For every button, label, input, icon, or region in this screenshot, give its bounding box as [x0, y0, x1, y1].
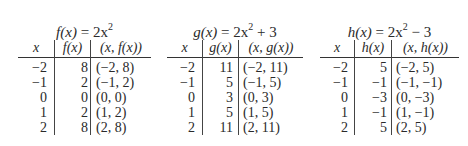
table-row: −25(−2, 5) [320, 60, 459, 75]
table-row: 15(1, 5) [167, 105, 303, 120]
table-row: −12(−1, 2) [18, 75, 151, 90]
table-row: −1−1(−1, −1) [320, 75, 459, 90]
header-x: x [320, 39, 354, 56]
table-row: 00(0, 0) [18, 90, 151, 105]
header-pair: (x, h(x)) [392, 39, 459, 56]
table-row: 12(1, 2) [18, 105, 151, 120]
header-pair: (x, f(x)) [91, 39, 151, 56]
header-gx: g(x) [203, 39, 238, 56]
table-row: −211(−2, 11) [167, 60, 303, 75]
table-g: g(x) = 2x2 + 3 x g(x) (x, g(x)) −211(−2,… [167, 23, 303, 135]
header-fx: f(x) [55, 39, 90, 56]
table-f: f(x) = 2x2 x f(x) (x, f(x)) −28(−2, 8) −… [18, 23, 151, 135]
table-row: 211(2, 11) [167, 120, 303, 135]
table-h: h(x) = 2x2 − 3 x h(x) (x, h(x)) −25(−2, … [320, 23, 459, 135]
header-x: x [167, 39, 202, 56]
table-row: 1−1(1, −1) [320, 105, 459, 120]
table-row: −15(−1, 5) [167, 75, 303, 90]
table-row: 03(0, 3) [167, 90, 303, 105]
header-hx: h(x) [355, 39, 391, 56]
header-rule [18, 57, 151, 58]
table-row: 0−3(0, −3) [320, 90, 459, 105]
header-rule [167, 57, 303, 58]
header-pair: (x, g(x)) [239, 39, 303, 56]
header-x: x [18, 39, 54, 56]
header-rule [320, 57, 459, 58]
table-row: 28(2, 8) [18, 120, 151, 135]
table-row: −28(−2, 8) [18, 60, 151, 75]
table-row: 25(2, 5) [320, 120, 459, 135]
